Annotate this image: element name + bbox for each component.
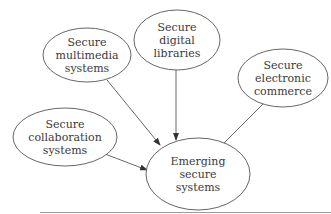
node-label-line: systems [65, 62, 110, 75]
edge-commerce-to-emerging [218, 104, 263, 149]
node-label-line: secure [179, 168, 216, 181]
edge-collaboration-to-emerging [105, 154, 147, 170]
node-label-line: Emerging [171, 155, 226, 168]
node-label-line: Secure [157, 21, 196, 34]
node-commerce: Secureelectroniccommerce [238, 49, 328, 107]
nodes-layer: SecuremultimediasystemsSecuredigitallibr… [13, 10, 328, 210]
node-label-line: Secure [263, 59, 302, 72]
node-label-line: multimedia [55, 49, 118, 62]
node-label-line: Secure [67, 36, 106, 49]
node-label-line: collaboration [28, 131, 102, 144]
node-multimedia: Securemultimediasystems [43, 28, 131, 82]
node-emerging: Emergingsecuresystems [146, 138, 250, 210]
node-collaboration: Securecollaborationsystems [13, 108, 117, 166]
node-label-line: commerce [254, 85, 312, 98]
node-label-line: digital [159, 34, 195, 47]
node-label-line: libraries [154, 47, 201, 60]
node-label-line: Secure [45, 118, 84, 131]
node-libraries: Securedigitallibraries [134, 10, 220, 70]
node-label-line: systems [43, 144, 88, 157]
node-label-line: systems [176, 181, 221, 194]
diagram-canvas: SecuremultimediasystemsSecuredigitallibr… [0, 0, 331, 214]
node-label-line: electronic [255, 72, 311, 85]
